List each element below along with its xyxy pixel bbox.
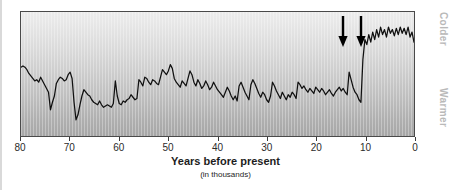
x-axis-subtitle: (in thousands) [0,170,451,179]
event-arrow-2 [355,16,367,48]
x-tick [267,137,268,141]
y-axis-label-colder: Colder [438,12,449,46]
x-tick [20,137,21,141]
x-tick [415,137,416,141]
x-tick [168,137,169,141]
event-arrow-1 [337,16,349,48]
x-tick [69,137,70,141]
x-tick-label: 70 [64,142,75,153]
x-tick-label: 0 [412,142,418,153]
x-axis: 80706050403020100 [20,137,415,138]
figure-container: Colder Warmer 80706050403020100 Years be… [0,0,451,190]
x-tick-label: 20 [311,142,322,153]
y-axis-label-warmer: Warmer [438,88,449,127]
x-tick-label: 50 [163,142,174,153]
x-tick-label: 80 [14,142,25,153]
x-tick-label: 10 [360,142,371,153]
x-tick-label: 40 [212,142,223,153]
x-tick [366,137,367,141]
x-tick-label: 60 [113,142,124,153]
x-tick [119,137,120,141]
x-axis-title: Years before present [0,155,451,167]
x-tick-label: 30 [261,142,272,153]
x-tick [218,137,219,141]
x-tick [316,137,317,141]
